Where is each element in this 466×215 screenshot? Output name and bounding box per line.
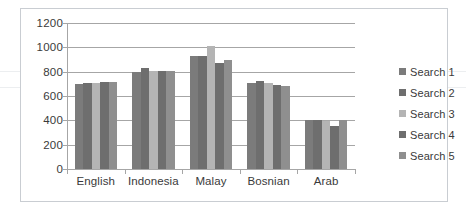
legend-item[interactable]: Search 2 bbox=[399, 82, 466, 103]
bar-series-container bbox=[67, 23, 355, 169]
bar bbox=[109, 82, 118, 169]
x-tick-label: Malay bbox=[182, 175, 240, 187]
x-tick-label: Indonesia bbox=[125, 175, 183, 187]
legend-item[interactable]: Search 4 bbox=[399, 124, 466, 145]
legend-swatch-icon bbox=[399, 131, 406, 138]
x-tick-mark bbox=[125, 169, 126, 174]
y-tick-label: 400 bbox=[43, 114, 63, 126]
bar bbox=[224, 60, 233, 170]
bar bbox=[158, 71, 167, 169]
legend-label: Search 4 bbox=[410, 129, 455, 141]
bar bbox=[141, 68, 150, 169]
bar bbox=[75, 84, 84, 169]
bar bbox=[132, 72, 141, 169]
legend-label: Search 5 bbox=[410, 150, 455, 162]
bar bbox=[313, 120, 322, 169]
x-tick-label: Bosnian bbox=[240, 175, 298, 187]
bar bbox=[281, 86, 290, 169]
bar bbox=[149, 71, 158, 169]
legend-label: Search 1 bbox=[410, 66, 455, 78]
bar bbox=[256, 81, 265, 169]
bar-group bbox=[125, 23, 183, 169]
y-tick-label: 0 bbox=[56, 163, 63, 175]
x-tick-mark bbox=[297, 169, 298, 174]
x-tick-label: Arab bbox=[297, 175, 355, 187]
bar-group bbox=[67, 23, 125, 169]
legend-label: Search 2 bbox=[410, 87, 455, 99]
legend-item[interactable]: Search 3 bbox=[399, 103, 466, 124]
bar-group bbox=[240, 23, 298, 169]
x-tick-mark bbox=[182, 169, 183, 174]
legend-swatch-icon bbox=[399, 110, 406, 117]
x-tick-mark bbox=[240, 169, 241, 174]
legend-swatch-icon bbox=[399, 68, 406, 75]
bar bbox=[305, 120, 314, 169]
y-tick-label: 800 bbox=[43, 66, 63, 78]
bar bbox=[190, 56, 199, 169]
y-tick-label: 1000 bbox=[37, 41, 63, 53]
bar bbox=[273, 85, 282, 169]
y-tick-label: 1200 bbox=[37, 17, 63, 29]
bar-group bbox=[297, 23, 355, 169]
y-axis-tick-labels: 020040060080010001200 bbox=[21, 23, 63, 169]
legend-swatch-icon bbox=[399, 89, 406, 96]
legend-item[interactable]: Search 5 bbox=[399, 145, 466, 166]
bar bbox=[264, 83, 273, 169]
bar bbox=[92, 83, 101, 169]
y-tick-label: 600 bbox=[43, 90, 63, 102]
bar bbox=[215, 63, 224, 169]
chart-legend: Search 1Search 2Search 3Search 4Search 5 bbox=[399, 61, 466, 166]
legend-swatch-icon bbox=[399, 152, 406, 159]
plot-area bbox=[67, 23, 355, 169]
bar bbox=[83, 83, 92, 169]
bar bbox=[100, 82, 109, 169]
bar bbox=[166, 71, 175, 169]
bar bbox=[247, 83, 256, 169]
x-tick-mark bbox=[67, 169, 68, 174]
legend-label: Search 3 bbox=[410, 108, 455, 120]
x-axis-category-labels: EnglishIndonesiaMalayBosnianArab bbox=[67, 175, 355, 187]
x-tick-mark bbox=[355, 169, 356, 174]
bar bbox=[322, 121, 331, 169]
bar bbox=[330, 126, 339, 169]
axis-baseline bbox=[67, 169, 355, 170]
y-tick-label: 200 bbox=[43, 139, 63, 151]
legend-item[interactable]: Search 1 bbox=[399, 61, 466, 82]
bar bbox=[339, 120, 348, 169]
chart-frame: 020040060080010001200 EnglishIndonesiaMa… bbox=[20, 8, 448, 202]
x-tick-label: English bbox=[67, 175, 125, 187]
bar bbox=[198, 56, 207, 169]
bar-group bbox=[182, 23, 240, 169]
bar bbox=[207, 46, 216, 169]
